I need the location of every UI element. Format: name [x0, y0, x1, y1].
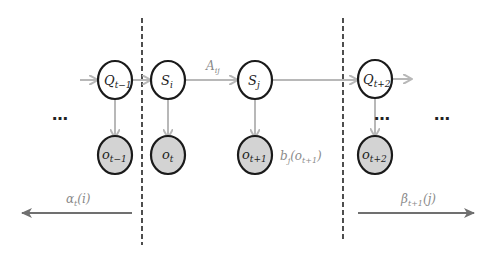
- transition-label-A_ij: Aij: [205, 59, 220, 75]
- ellipsis-mid: …: [374, 105, 390, 124]
- beta-label: βt+1(j): [400, 192, 436, 208]
- node-o_t: ot: [151, 136, 185, 174]
- ellipsis-right: …: [434, 105, 450, 124]
- node-o_t+2: ot+2: [358, 136, 392, 174]
- alpha-label: αt(i): [66, 192, 91, 208]
- node-S_j: Sj: [238, 61, 272, 99]
- hmm-diagram: Qt−1 Si Sj Qt+2 ot−1 ot ot+1 ot+2 Aij bj…: [0, 0, 493, 260]
- node-Q_t+2: Qt+2: [358, 60, 392, 98]
- node-S_i: Si: [151, 61, 185, 99]
- node-Q_t-1: Qt−1: [98, 61, 132, 99]
- node-o_t+1: ot+1: [238, 136, 272, 174]
- ellipsis-left: …: [52, 105, 68, 124]
- emission-label-b_j: bj(ot+1): [280, 149, 322, 165]
- node-o_t-1: ot−1: [98, 136, 132, 174]
